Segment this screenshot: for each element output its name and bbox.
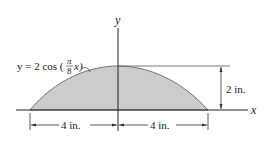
- diagram-canvas: y x 2 in. 4 in. 4 in. y = 2 cos ( π 8 x): [0, 0, 268, 144]
- arrowhead-up-icon: [220, 67, 223, 72]
- x-axis-label: x: [250, 103, 257, 117]
- equation-prefix: y = 2 cos (: [17, 60, 64, 73]
- left-dim-label: 4 in.: [61, 119, 81, 131]
- equation-frac-den: 8: [67, 66, 72, 76]
- right-dim-label: 4 in.: [150, 119, 170, 131]
- shaded-region: [30, 66, 208, 110]
- arrowhead-down-icon: [220, 104, 223, 109]
- arrowhead-right-icon: [112, 124, 117, 127]
- arrowhead-right-icon: [202, 124, 207, 127]
- arrowhead-left-icon: [31, 124, 36, 127]
- y-axis-label: y: [114, 13, 121, 27]
- arrowhead-left-icon: [119, 124, 124, 127]
- height-dim-label: 2 in.: [226, 83, 246, 95]
- equation-suffix: x): [73, 60, 83, 73]
- equation-frac-num: π: [67, 56, 72, 66]
